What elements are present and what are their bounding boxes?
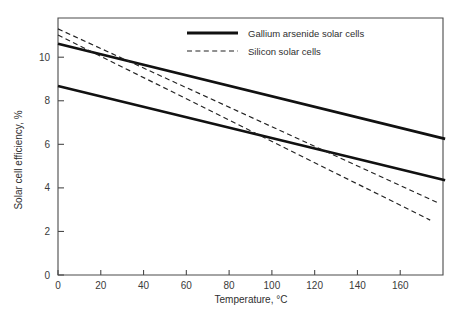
x-tick-label: 160	[392, 280, 409, 291]
x-tick-label: 40	[138, 280, 150, 291]
x-tick-label: 100	[264, 280, 281, 291]
x-tick-label: 80	[224, 280, 236, 291]
x-tick-label: 0	[55, 280, 61, 291]
y-axis-title: Solar cell efficiency, %	[13, 110, 24, 209]
x-tick-label: 120	[306, 280, 323, 291]
y-tick-label: 8	[44, 95, 50, 106]
series-line	[58, 86, 445, 180]
legend-label-silicon: Silicon solar cells	[248, 46, 321, 57]
x-axis-ticks: 020406080100120140160	[55, 270, 409, 291]
y-tick-label: 4	[44, 182, 50, 193]
y-tick-label: 10	[39, 52, 51, 63]
y-tick-label: 0	[44, 270, 50, 281]
solar-cell-efficiency-chart: 020406080100120140160 0246810 Temperatur…	[0, 0, 460, 325]
series-line	[58, 44, 445, 139]
x-axis-title: Temperature, °C	[215, 294, 288, 305]
x-tick-label: 60	[181, 280, 193, 291]
series-lines	[58, 29, 445, 220]
x-tick-label: 20	[95, 280, 107, 291]
y-tick-label: 2	[44, 226, 50, 237]
x-tick-label: 140	[349, 280, 366, 291]
series-line	[58, 35, 430, 220]
legend-label-gallium-arsenide: Gallium arsenide solar cells	[248, 28, 364, 39]
y-tick-label: 6	[44, 139, 50, 150]
chart-figure: 020406080100120140160 0246810 Temperatur…	[0, 0, 460, 325]
chart-legend: Gallium arsenide solar cells Silicon sol…	[187, 28, 364, 57]
plot-frame	[58, 18, 443, 275]
